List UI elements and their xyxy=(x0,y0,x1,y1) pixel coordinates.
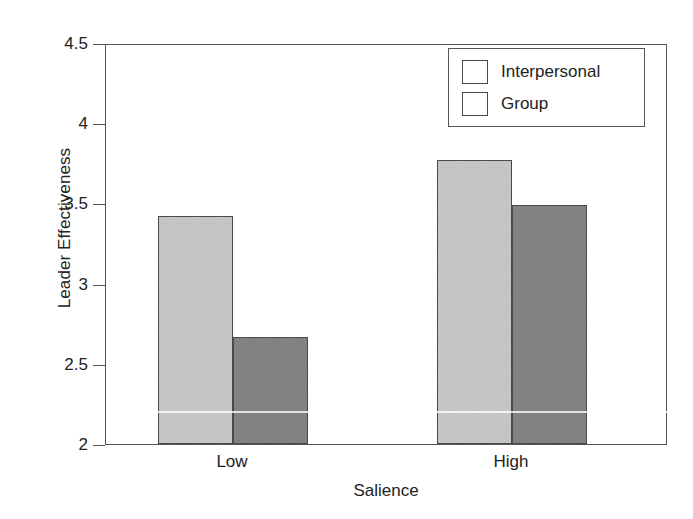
bar-chart-figure: Leader Effectiveness 22.533.544.5 LowHig… xyxy=(0,0,693,519)
y-tick-mark xyxy=(93,44,105,45)
legend-entry-group: Group xyxy=(462,89,548,119)
x-tick-label-low: Low xyxy=(152,452,312,472)
legend-swatch-group xyxy=(462,92,488,116)
bar-low-interpersonal xyxy=(158,216,233,444)
x-axis-title: Salience xyxy=(105,481,667,501)
legend-entry-interpersonal: Interpersonal xyxy=(462,57,600,87)
chart-legend: Interpersonal Group xyxy=(448,48,645,127)
y-tick-label: 4.5 xyxy=(33,34,88,54)
y-tick-label: 3.5 xyxy=(33,194,88,214)
legend-swatch-interpersonal xyxy=(462,60,488,84)
x-tick-label-high: High xyxy=(431,452,591,472)
y-tick-mark xyxy=(93,204,105,205)
legend-label-interpersonal: Interpersonal xyxy=(501,62,600,82)
bar-high-interpersonal xyxy=(437,160,512,444)
y-tick-label: 2 xyxy=(33,435,88,455)
y-tick-mark xyxy=(93,365,105,366)
y-tick-label: 3 xyxy=(33,275,88,295)
bar-high-group xyxy=(512,205,587,444)
bar-low-group xyxy=(233,337,308,444)
y-tick-mark xyxy=(93,445,105,446)
y-tick-mark xyxy=(93,285,105,286)
legend-label-group: Group xyxy=(501,94,548,114)
y-tick-label: 2.5 xyxy=(33,355,88,375)
y-tick-mark xyxy=(93,124,105,125)
y-tick-label: 4 xyxy=(33,114,88,134)
